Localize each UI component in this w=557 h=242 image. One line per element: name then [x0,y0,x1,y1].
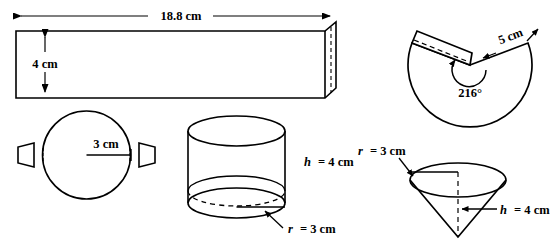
circle-tab-left [18,143,34,167]
geometry-figure: 18.8 cm 4 cm 3 cm [0,0,557,242]
cone-radius-leader [399,158,413,176]
cylinder-height-var: h [304,155,311,169]
height-label: 4 cm [32,57,58,71]
cone-height-var: h [500,203,507,217]
cylinder-net-circle: 3 cm [18,111,155,199]
length-label: 18.8 cm [161,9,203,23]
cone-radius-value: = 3 cm [370,144,406,158]
cylinder-bottom-back-arc [188,188,285,203]
rectangle-body [16,22,336,98]
circle-tab-right [139,143,155,167]
cylinder-solid: h = 4 cm r = 3 cm [188,116,354,236]
sector-angle-label: 216° [458,86,482,100]
cone-net-sector: 216° 5 cm [408,25,538,127]
sector-radius-label: 5 cm [496,25,525,47]
cone-height-value: = 4 cm [514,203,550,217]
cone-radius-var: r [358,144,363,158]
cone-height-label: h = 4 cm [500,203,550,217]
cone-solid: r = 3 cm h = 4 cm [358,144,550,237]
cylinder-radius-leader [265,211,283,228]
cylinder-height-value: = 4 cm [318,155,354,169]
cylinder-radius-value: = 3 cm [300,222,336,236]
cylinder-net-rectangle [16,22,336,98]
length-dimension: 18.8 cm [21,9,330,23]
cylinder-radius-label: r = 3 cm [288,222,336,236]
figure-canvas: 18.8 cm 4 cm 3 cm [0,0,557,242]
sector-radius-arrow-outer [527,29,538,41]
cylinder-height-label: h = 4 cm [304,155,354,169]
cone-radius-label: r = 3 cm [358,144,406,158]
cylinder-top-ellipse [188,116,285,146]
circle-radius-label: 3 cm [93,137,119,151]
cylinder-radius-var: r [288,222,293,236]
cylinder-hidden-base-dashed [188,191,285,206]
